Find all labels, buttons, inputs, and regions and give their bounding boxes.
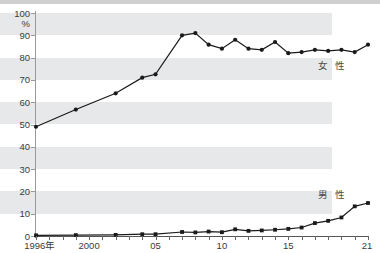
- x-label-1996: 1996年: [24, 241, 55, 251]
- data-point: [207, 230, 211, 234]
- data-point: [233, 227, 237, 231]
- data-point: [339, 48, 343, 52]
- data-point: [273, 228, 277, 232]
- x-label-2010: 10: [217, 241, 228, 251]
- data-point: [140, 76, 144, 80]
- data-point: [153, 72, 157, 76]
- data-point: [300, 50, 304, 54]
- data-point: [207, 43, 211, 47]
- x-tick: [129, 236, 130, 240]
- x-label-2021: 21: [362, 241, 373, 251]
- data-point: [247, 229, 251, 233]
- chart-container: 100 % 90 80 70 60 50 40 30 20 10 0 1996年…: [0, 0, 380, 253]
- data-point: [193, 31, 197, 35]
- x-tick: [341, 236, 342, 240]
- x-label-2015: 15: [283, 241, 294, 251]
- x-tick: [248, 236, 249, 240]
- data-point: [353, 204, 357, 208]
- x-tick: [116, 236, 117, 240]
- data-point: [246, 47, 250, 51]
- data-point: [74, 107, 78, 111]
- x-tick: [275, 236, 276, 240]
- data-point: [313, 221, 317, 225]
- data-point: [300, 226, 304, 230]
- x-tick: [328, 236, 329, 240]
- data-point: [260, 48, 264, 52]
- data-point: [313, 48, 317, 52]
- series-layer: [0, 0, 380, 253]
- data-point: [326, 49, 330, 53]
- x-tick: [195, 236, 196, 240]
- x-tick: [262, 236, 263, 240]
- x-tick: [209, 236, 210, 240]
- data-point: [286, 51, 290, 55]
- series-line-female: [36, 33, 368, 127]
- data-point: [233, 38, 237, 42]
- x-tick: [315, 236, 316, 240]
- x-tick: [102, 236, 103, 240]
- x-tick: [235, 236, 236, 240]
- x-tick: [169, 236, 170, 240]
- data-point: [273, 40, 277, 44]
- series-line-male: [36, 203, 368, 235]
- data-point: [180, 33, 184, 37]
- data-point: [260, 229, 264, 233]
- series-label-male: 男 性: [318, 187, 347, 201]
- data-point: [34, 125, 38, 129]
- series-label-female: 女 性: [318, 58, 347, 72]
- x-tick: [355, 236, 356, 240]
- data-point: [220, 230, 224, 234]
- data-point: [340, 216, 344, 220]
- x-label-2000: 2000: [79, 241, 100, 251]
- x-tick: [302, 236, 303, 240]
- data-point: [326, 219, 330, 223]
- data-point: [114, 91, 118, 95]
- x-tick: [76, 236, 77, 240]
- x-tick: [182, 236, 183, 240]
- data-point: [353, 50, 357, 54]
- data-point: [286, 227, 290, 231]
- data-point: [220, 47, 224, 51]
- data-point: [366, 201, 370, 205]
- data-point: [193, 231, 197, 235]
- x-label-2005: 05: [150, 241, 161, 251]
- x-tick: [63, 236, 64, 240]
- data-point: [180, 230, 184, 234]
- data-point: [366, 43, 370, 47]
- x-tick: [142, 236, 143, 240]
